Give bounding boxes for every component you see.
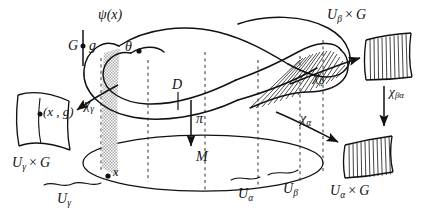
- label-U-beta-base: Uβ: [283, 182, 298, 198]
- label-U-alpha-times-G: Uα×G: [330, 184, 369, 200]
- label-U-gamma-base: Uγ: [57, 192, 71, 208]
- label-base-M: M: [196, 150, 208, 164]
- figure-canvas: ψ(x) G g θ D π M x χγ χβ χα χβα (x , g) …: [0, 0, 432, 220]
- total-space-band: [84, 17, 350, 119]
- label-U-beta-times-G: Uβ×G: [327, 8, 366, 24]
- fiber-guide-lines: [101, 40, 323, 190]
- times-sign-alpha: ×: [348, 183, 356, 198]
- U-beta-subscript: β: [337, 14, 342, 24]
- U-alpha-subscript: α: [340, 190, 345, 200]
- U-gamma-base-glyph: U: [57, 191, 67, 206]
- label-total-space-D: D: [172, 78, 182, 92]
- band-twist-hatching: [250, 51, 346, 108]
- label-group-element-g: g: [89, 39, 96, 53]
- label-projection-pi: π: [196, 112, 203, 126]
- beta-box-hatching: [370, 34, 407, 80]
- U-alpha-base-subscript: α: [248, 193, 253, 203]
- label-chi-gamma: χγ: [84, 98, 94, 114]
- base-open-set-braces: [44, 170, 298, 186]
- label-U-alpha-base: Uα: [238, 187, 253, 203]
- label-pair-x-g: (x , g): [43, 105, 74, 118]
- chi-gamma-subscript: γ: [90, 104, 94, 114]
- label-point-x: x: [113, 166, 118, 178]
- U-alpha-glyph: U: [330, 183, 340, 198]
- label-theta: θ: [125, 40, 132, 54]
- U-gamma-glyph: U: [12, 155, 22, 170]
- times-sign-beta: ×: [345, 7, 353, 22]
- label-U-gamma-times-G: Uγ×G: [12, 156, 50, 172]
- chi-beta-alpha-glyph: χ: [389, 84, 395, 99]
- fiber-G-segment: [81, 30, 86, 66]
- base-point-x: [105, 173, 110, 178]
- U-beta-base-subscript: β: [293, 188, 298, 198]
- U-gamma-subscript: γ: [22, 162, 26, 172]
- chi-alpha-subscript: α: [306, 118, 311, 128]
- G-factor-alpha: G: [359, 183, 369, 198]
- U-alpha-base-glyph: U: [238, 186, 248, 201]
- G-factor-gamma: G: [40, 155, 50, 170]
- U-beta-glyph: U: [327, 7, 337, 22]
- label-chi-beta: χβ: [313, 70, 324, 86]
- section-point-marker: [136, 48, 141, 53]
- G-factor-beta: G: [356, 7, 366, 22]
- chi-beta-alpha-subscript: βα: [395, 90, 404, 100]
- label-chi-alpha: χα: [300, 112, 311, 128]
- left-trivialization-box: [17, 93, 70, 150]
- label-group-G: G: [68, 39, 78, 53]
- times-sign-gamma: ×: [29, 155, 37, 170]
- U-gamma-base-subscript: γ: [67, 198, 71, 208]
- left-box-point: [38, 112, 43, 117]
- U-beta-base-glyph: U: [283, 181, 293, 196]
- chi-beta-subscript: β: [319, 76, 324, 86]
- beta-trivialization-box: [365, 33, 413, 80]
- label-psi-x: ψ(x): [98, 8, 122, 22]
- label-chi-beta-alpha: χβα: [389, 85, 404, 100]
